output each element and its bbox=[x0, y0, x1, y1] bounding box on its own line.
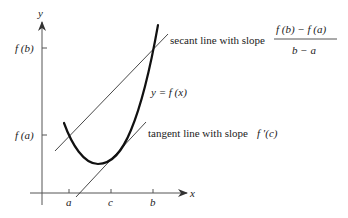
secant-slope-numerator: f (b) − f (a) bbox=[276, 23, 327, 36]
x-axis-label: x bbox=[189, 187, 195, 199]
x-tick-label-c: c bbox=[108, 196, 113, 208]
secant-slope-denominator: b − a bbox=[292, 44, 316, 56]
secant-label: secant line with slope bbox=[170, 34, 265, 46]
x-tick-label-b: b bbox=[150, 196, 156, 208]
y-axis-label: y bbox=[37, 7, 43, 19]
y-tick-label-fb: f (b) bbox=[15, 42, 34, 55]
curve-label: y = f (x) bbox=[150, 86, 187, 99]
x-tick-label-a: a bbox=[66, 196, 72, 208]
function-curve bbox=[64, 25, 158, 164]
tangent-label: tangent line with slope bbox=[148, 127, 248, 139]
tangent-slope: f ′(c) bbox=[257, 127, 278, 140]
y-tick-label-fa: f (a) bbox=[15, 129, 34, 142]
mvt-diagram: y x f (b) f (a) a c b y = f (x) secant l… bbox=[0, 0, 348, 218]
